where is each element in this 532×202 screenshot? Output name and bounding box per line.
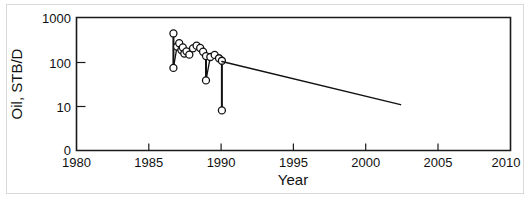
data-point-marker — [202, 77, 209, 84]
x-tick-label-2010: 2010 — [492, 155, 521, 170]
plot-frame — [77, 18, 511, 151]
x-tick-label-1990: 1990 — [207, 155, 236, 170]
trend-line-group — [222, 62, 401, 105]
y-axis-title: Oil, STB/D — [8, 48, 25, 119]
trend-segment — [222, 62, 401, 105]
x-tick-label-1985: 1985 — [134, 155, 163, 170]
data-point-marker — [218, 107, 225, 114]
x-tick-label-1995: 1995 — [279, 155, 308, 170]
y-axis-tick-labels: 1000 100 10 0 — [42, 11, 71, 159]
y-tick-label-100: 100 — [49, 56, 71, 71]
x-axis-tick-labels: 1980 1985 1990 1995 2000 2005 2010 — [62, 155, 520, 170]
measured-series-group — [170, 30, 225, 114]
y-tick-label-1000: 1000 — [42, 11, 71, 26]
x-tick-label-2000: 2000 — [351, 155, 380, 170]
data-point-marker — [218, 57, 225, 64]
oil-decline-chart: 1000 100 10 0 Oil, STB/D 1980 1985 1990 … — [0, 0, 532, 202]
figure-container: 1000 100 10 0 Oil, STB/D 1980 1985 1990 … — [0, 0, 532, 202]
data-point-marker — [170, 30, 177, 37]
data-point-marker — [170, 64, 177, 71]
y-tick-label-10: 10 — [57, 100, 71, 115]
y-axis-ticks — [77, 63, 86, 107]
x-tick-label-2005: 2005 — [424, 155, 453, 170]
x-axis-ticks — [149, 144, 438, 151]
x-axis-title: Year — [278, 171, 308, 188]
data-series-layer — [170, 30, 401, 114]
x-tick-label-1980: 1980 — [62, 155, 91, 170]
